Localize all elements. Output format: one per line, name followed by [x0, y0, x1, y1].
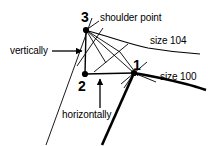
vertically-label: vertically — [10, 46, 48, 56]
size-100-label: size 100 — [160, 72, 196, 82]
point-3-label: 3 — [81, 10, 89, 24]
construction-stroke-b — [86, 30, 120, 52]
horizontal-grading-segment — [85, 73, 134, 74]
point-2-dot — [82, 71, 88, 77]
horizontally-label: horizontally — [62, 110, 111, 120]
vertical-grading-segment — [85, 30, 86, 74]
size-104-label: size 104 — [150, 36, 186, 46]
shoulder-point-label: shoulder point — [100, 13, 161, 23]
tick-stroke-d — [94, 44, 128, 72]
point-3-dot — [83, 27, 89, 33]
point-1-label: 1 — [133, 58, 141, 72]
grade-line-3-to-1 — [86, 30, 134, 73]
point-2-label: 2 — [78, 79, 86, 93]
shoulder-point-diagram: 3 2 1 shoulder point size 104 size 100 v… — [0, 0, 208, 146]
